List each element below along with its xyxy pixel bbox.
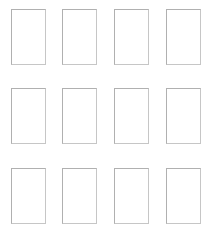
card-content — [12, 89, 45, 143]
card-content — [115, 10, 148, 64]
card-item[interactable] — [166, 168, 201, 224]
card-item[interactable] — [114, 88, 149, 144]
card-item[interactable] — [11, 9, 46, 65]
card-item[interactable] — [11, 168, 46, 224]
card-item[interactable] — [166, 9, 201, 65]
card-item[interactable] — [62, 168, 97, 224]
card-grid — [0, 0, 214, 233]
card-grid-row — [0, 168, 214, 224]
card-content — [115, 89, 148, 143]
card-content — [12, 169, 45, 223]
card-content — [167, 10, 200, 64]
card-grid-row — [0, 9, 214, 65]
card-content — [167, 169, 200, 223]
card-grid-row — [0, 88, 214, 144]
card-item[interactable] — [11, 88, 46, 144]
card-item[interactable] — [62, 88, 97, 144]
card-content — [115, 169, 148, 223]
card-content — [167, 89, 200, 143]
card-item[interactable] — [166, 88, 201, 144]
card-item[interactable] — [114, 168, 149, 224]
card-content — [63, 169, 96, 223]
card-item[interactable] — [62, 9, 97, 65]
card-content — [63, 89, 96, 143]
card-content — [63, 10, 96, 64]
card-item[interactable] — [114, 9, 149, 65]
card-content — [12, 10, 45, 64]
